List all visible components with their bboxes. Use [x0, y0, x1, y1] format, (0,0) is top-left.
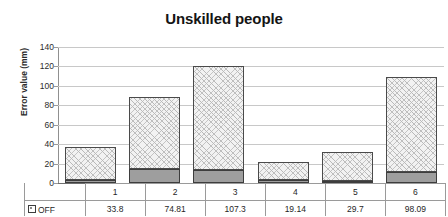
category-label-1: 1: [85, 184, 145, 201]
gridline-140: [58, 47, 444, 48]
bar-group-5[interactable]: [322, 152, 373, 183]
category-label-6: 6: [385, 184, 445, 201]
legend-entry-off[interactable]: OFF: [25, 201, 85, 217]
y-tick-mark-120: [54, 66, 58, 67]
table-row-categories: 123456: [25, 184, 446, 201]
y-tick-mark-0: [54, 183, 58, 184]
bar-group-1[interactable]: [65, 147, 116, 183]
bar-segment-upper-2[interactable]: [129, 97, 180, 170]
bar-segment-base-3[interactable]: [193, 170, 244, 183]
y-tick-label-20: 20: [20, 160, 54, 169]
bar-group-3[interactable]: [193, 66, 244, 183]
category-label-5: 5: [325, 184, 385, 201]
data-value-4: 19.14: [265, 201, 325, 217]
bar-group-6[interactable]: [386, 77, 437, 183]
y-tick-label-60: 60: [20, 121, 54, 130]
y-tick-label-80: 80: [20, 101, 54, 110]
data-table-wrapper: 123456 OFF33.874.81107.319.1429.798.09: [24, 183, 446, 216]
data-value-6: 98.09: [385, 201, 445, 217]
y-tick-mark-100: [54, 86, 58, 87]
bar-segment-upper-5[interactable]: [322, 152, 373, 181]
chart-title: Unskilled people: [0, 10, 448, 27]
bar-group-2[interactable]: [129, 97, 180, 183]
plot-area: [58, 47, 444, 183]
y-axis-tick-labels: 020406080100120140: [16, 47, 54, 183]
bar-segment-base-6[interactable]: [386, 172, 437, 183]
bar-segment-upper-1[interactable]: [65, 147, 116, 180]
y-tick-label-120: 120: [20, 62, 54, 71]
table-corner-blank: [25, 184, 85, 201]
bar-group-4[interactable]: [258, 162, 309, 183]
category-label-3: 3: [205, 184, 265, 201]
y-tick-mark-60: [54, 125, 58, 126]
category-label-2: 2: [145, 184, 205, 201]
data-value-1: 33.8: [85, 201, 145, 217]
bar-segment-upper-6[interactable]: [386, 77, 437, 172]
data-table: 123456 OFF33.874.81107.319.1429.798.09: [25, 183, 446, 216]
bar-segment-upper-3[interactable]: [193, 66, 244, 170]
legend-swatch-icon: [28, 205, 36, 213]
y-tick-mark-80: [54, 105, 58, 106]
y-tick-mark-140: [54, 47, 58, 48]
y-tick-label-100: 100: [20, 82, 54, 91]
gridline-120: [58, 66, 444, 67]
data-value-3: 107.3: [205, 201, 265, 217]
y-tick-mark-20: [54, 164, 58, 165]
bar-segment-upper-4[interactable]: [258, 162, 309, 180]
category-label-4: 4: [265, 184, 325, 201]
y-tick-label-140: 140: [20, 43, 54, 52]
table-row-values: OFF33.874.81107.319.1429.798.09: [25, 201, 446, 217]
y-tick-label-40: 40: [20, 140, 54, 149]
bar-segment-base-2[interactable]: [129, 169, 180, 183]
legend-label-off: OFF: [38, 205, 55, 215]
data-value-2: 74.81: [145, 201, 205, 217]
chart-container: Unskilled people Error value (mm) 020406…: [0, 0, 448, 216]
y-tick-mark-40: [54, 144, 58, 145]
data-value-5: 29.7: [325, 201, 385, 217]
